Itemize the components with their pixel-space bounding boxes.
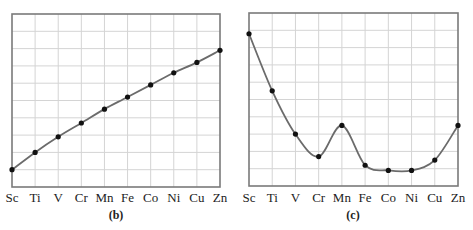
data-point-fe xyxy=(125,94,130,99)
x-tick-fe: Fe xyxy=(121,190,134,206)
x-tick-sc: Sc xyxy=(243,190,256,206)
x-tick-ni: Ni xyxy=(405,190,418,206)
chart-panel-b: ScTiVCrMnFeCoNiCuZn (b) xyxy=(0,0,236,230)
x-tick-mn: Mn xyxy=(95,190,113,206)
data-point-v xyxy=(56,134,61,139)
x-tick-mn: Mn xyxy=(333,190,351,206)
grid-b xyxy=(12,14,220,187)
data-point-co xyxy=(148,82,153,87)
data-point-ni xyxy=(171,70,176,75)
x-tick-v: V xyxy=(54,190,63,206)
data-point-cu xyxy=(432,157,437,162)
chart-panel-c: ScTiVCrMnFeCoNiCuZn (c) xyxy=(236,0,473,230)
x-tick-ni: Ni xyxy=(167,190,180,206)
data-point-v xyxy=(293,132,298,137)
x-tick-ti: Ti xyxy=(267,190,278,206)
data-point-ti xyxy=(33,150,38,155)
data-point-cr xyxy=(316,154,321,159)
x-tick-co: Co xyxy=(143,190,158,206)
x-tick-cu: Cu xyxy=(189,190,204,206)
data-point-mn xyxy=(339,123,344,128)
x-tick-fe: Fe xyxy=(359,190,372,206)
x-tick-co: Co xyxy=(381,190,396,206)
chart-caption-b: (b) xyxy=(109,208,124,223)
data-point-sc xyxy=(246,31,251,36)
data-point-ni xyxy=(409,168,414,173)
x-tick-sc: Sc xyxy=(6,190,19,206)
data-point-cr xyxy=(79,120,84,125)
data-point-zn xyxy=(217,48,222,53)
chart-caption-c: (c) xyxy=(346,208,359,223)
x-tick-cr: Cr xyxy=(75,190,88,206)
data-point-cu xyxy=(194,60,199,65)
data-point-ti xyxy=(270,88,275,93)
x-tick-cu: Cu xyxy=(427,190,442,206)
data-line-b xyxy=(12,50,220,169)
data-point-zn xyxy=(455,123,460,128)
x-tick-zn: Zn xyxy=(213,190,227,206)
grid-c xyxy=(249,13,458,186)
data-point-fe xyxy=(363,163,368,168)
data-line-c xyxy=(249,34,458,172)
data-point-co xyxy=(386,168,391,173)
x-tick-ti: Ti xyxy=(30,190,41,206)
x-tick-cr: Cr xyxy=(312,190,325,206)
data-point-mn xyxy=(102,107,107,112)
x-tick-zn: Zn xyxy=(451,190,465,206)
x-tick-v: V xyxy=(291,190,300,206)
data-point-sc xyxy=(9,167,14,172)
